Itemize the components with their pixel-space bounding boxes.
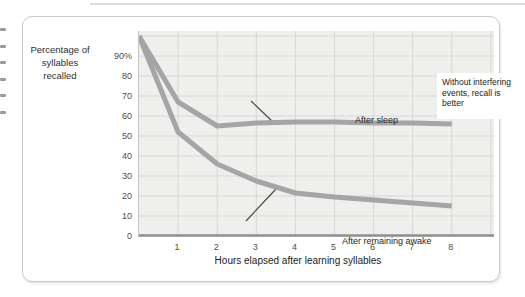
cut-off-text-fragment (0, 94, 6, 97)
annotation-box: Without interfering events, recall is be… (437, 73, 525, 119)
x-tick-label: 5 (331, 242, 336, 252)
annotation-line: events, recall is (442, 88, 525, 99)
cut-off-text-fragment (0, 28, 6, 31)
x-axis-ticks: 12345678 (138, 242, 493, 254)
x-tick-label: 3 (253, 242, 258, 252)
x-axis-title: Hours elapsed after learning syllables (138, 255, 458, 266)
y-tick-label: 70 (122, 91, 132, 101)
series-label-after-sleep: After sleep (355, 115, 398, 125)
cut-off-text-fragment (0, 78, 6, 81)
figure-card: Percentage of syllables recalled 90%8070… (22, 16, 500, 282)
y-axis-title-line: syllables (25, 56, 95, 69)
plot-svg (139, 31, 494, 237)
y-tick-label: 50 (122, 131, 132, 141)
y-tick-label: 10 (122, 211, 132, 221)
y-tick-label: 0 (127, 231, 132, 241)
y-axis-title-line: recalled (25, 69, 95, 82)
x-tick-label: 6 (370, 242, 375, 252)
y-axis-title-line: Percentage of (25, 43, 95, 56)
plot-area: Without interfering events, recall is be… (138, 31, 494, 237)
x-tick-label: 2 (214, 242, 219, 252)
x-tick-label: 8 (448, 242, 453, 252)
y-axis-ticks: 90%80706050403020100 (103, 17, 132, 257)
x-tick-label: 4 (292, 242, 297, 252)
y-tick-label: 20 (122, 191, 132, 201)
cut-off-text-fragment (0, 111, 6, 114)
y-tick-label: 40 (122, 151, 132, 161)
x-tick-label: 1 (175, 242, 180, 252)
y-tick-label: 80 (122, 71, 132, 81)
annotation-line: Without interfering (442, 77, 525, 88)
x-tick-label: 7 (409, 242, 414, 252)
y-axis-title: Percentage of syllables recalled (25, 43, 95, 82)
cut-off-text-fragment (0, 45, 6, 48)
y-tick-label: 60 (122, 111, 132, 121)
cut-off-text-fragment (0, 61, 6, 64)
y-tick-label: 30 (122, 171, 132, 181)
page-edge-line (90, 3, 525, 5)
y-tick-label: 90% (114, 51, 132, 61)
annotation-line: better (442, 98, 525, 109)
